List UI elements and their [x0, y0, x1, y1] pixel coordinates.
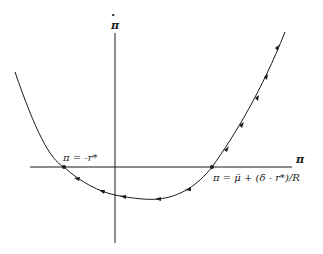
arrow-icon	[99, 190, 105, 194]
right-equilibrium-label: π = μ̄ + (δ - r*)/R	[212, 172, 300, 183]
y-axis-label: • π	[110, 11, 120, 32]
svg-text:π: π	[110, 19, 120, 32]
arrow-icon	[120, 195, 126, 199]
arrow-icon	[74, 177, 80, 181]
left-equilibrium-label: π = -r*	[62, 152, 97, 163]
phase-diagram: • π π π = -r* π = μ̄ + (δ - r*)/R	[0, 0, 323, 254]
arrow-icon	[155, 197, 161, 201]
x-axis-label: π	[295, 153, 305, 166]
arrow-icon	[239, 122, 244, 128]
left-equilibrium-point	[62, 165, 66, 169]
right-equilibrium-point	[210, 165, 214, 169]
direction-arrows-lower	[74, 177, 191, 201]
